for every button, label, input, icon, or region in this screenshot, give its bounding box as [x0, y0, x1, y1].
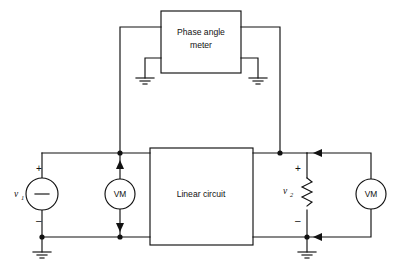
voltmeter-left-label: VM — [114, 189, 127, 199]
phase-angle-meter-label-line1: Phase angle — [177, 27, 225, 37]
resistor-v2-label: v — [283, 186, 288, 196]
voltmeter-right-branch: VM — [313, 149, 386, 241]
main-wiring-left — [42, 153, 150, 252]
source-v1-label: v — [14, 189, 19, 199]
phase-angle-meter-block: Phase angle meter — [161, 11, 241, 73]
node-top-right-probe — [277, 150, 282, 155]
voltmeter-left-branch: VM — [105, 153, 135, 237]
resistor-v2: v 2 + – — [283, 163, 312, 226]
arrow-left-vm-top — [116, 160, 124, 169]
wire-phase-left-input — [120, 27, 161, 153]
voltmeter-right-label: VM — [365, 189, 378, 199]
wire-vm-right-bottom — [307, 209, 371, 237]
arrow-right-vm-top — [313, 149, 322, 157]
node-top-left-probe — [117, 150, 122, 155]
source-v1: v 1 + – — [14, 163, 58, 226]
ground-source-v1 — [33, 252, 51, 258]
resistor-v2-zigzag — [302, 178, 312, 206]
wire-phase-right-input — [241, 27, 280, 153]
node-source-bottom — [39, 234, 44, 239]
node-load-bottom — [304, 234, 309, 239]
ground-phase-meter-right — [249, 78, 267, 84]
phase-angle-meter-label-line2: meter — [190, 40, 212, 50]
ground-load-v2 — [298, 252, 316, 258]
wire-phase-right-ground — [241, 58, 258, 78]
resistor-v2-label-subscript: 2 — [290, 191, 294, 198]
linear-circuit-block: Linear circuit — [150, 148, 253, 245]
circuit-diagram: Phase angle meter Linear circuit — [0, 0, 412, 277]
resistor-v2-plus-sign: + — [295, 163, 301, 174]
arrow-left-vm-bottom — [116, 223, 124, 232]
source-v1-minus-sign: – — [36, 215, 42, 226]
wire-phase-left-ground — [145, 58, 161, 78]
ground-phase-meter-left — [136, 78, 154, 84]
source-v1-label-subscript: 1 — [21, 194, 24, 201]
wire-vm-right-top — [307, 153, 371, 179]
linear-circuit-label: Linear circuit — [177, 189, 226, 199]
resistor-v2-minus-sign: – — [295, 215, 301, 226]
arrow-right-vm-bottom — [313, 233, 322, 241]
node-bottom-left-probe — [117, 234, 122, 239]
source-v1-plus-sign: + — [36, 163, 42, 174]
